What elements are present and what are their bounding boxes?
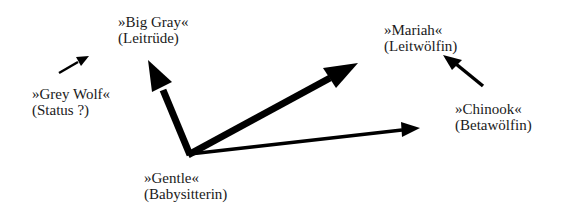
node-chinook: »Chinook« (Betawölfin)	[455, 101, 532, 133]
node-name: »Chinook«	[455, 101, 532, 117]
arrow-chinook-to-mariah	[443, 55, 483, 86]
node-role: (Status ?)	[32, 102, 110, 118]
node-name: »Mariah«	[384, 22, 457, 38]
node-role: (Leitwölfin)	[384, 38, 457, 54]
node-role: (Betawölfin)	[455, 117, 532, 133]
node-name: »Gentle«	[144, 170, 227, 186]
node-role: (Leitrüde)	[118, 30, 188, 46]
arrow-grey-wolf-to-big-gray	[59, 56, 89, 73]
node-grey-wolf: »Grey Wolf« (Status ?)	[32, 86, 110, 118]
node-big-gray: »Big Gray« (Leitrüde)	[118, 14, 188, 46]
dominance-diagram: »Big Gray« (Leitrüde) »Mariah« (Leitwölf…	[0, 0, 570, 212]
arrow-gentle-to-mariah	[188, 63, 358, 155]
node-gentle: »Gentle« (Babysitterin)	[144, 170, 227, 202]
arrow-gentle-to-big-gray	[148, 60, 190, 155]
node-name: »Big Gray«	[118, 14, 188, 30]
node-role: (Babysitterin)	[144, 186, 227, 202]
node-mariah: »Mariah« (Leitwölfin)	[384, 22, 457, 54]
node-name: »Grey Wolf«	[32, 86, 110, 102]
